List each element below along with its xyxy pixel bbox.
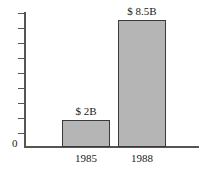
x-axis-category-label-1988: 1988	[118, 152, 166, 164]
bar-1985	[62, 120, 110, 147]
y-axis-line	[24, 12, 26, 148]
y-axis-tick	[18, 118, 24, 119]
y-axis-tick	[18, 103, 24, 104]
y-axis-tick	[18, 28, 24, 29]
y-axis-tick	[18, 88, 24, 89]
y-axis-tick	[18, 13, 24, 14]
y-axis-tick	[18, 58, 24, 59]
x-axis-line	[24, 146, 199, 148]
y-axis-tick	[18, 133, 24, 134]
y-axis-origin-label: 0	[12, 138, 18, 149]
bar-value-label-1985: $ 2B	[62, 106, 110, 117]
y-axis-tick	[18, 43, 24, 44]
x-axis-category-label-1985: 1985	[62, 152, 110, 164]
bar-chart: 0 $ 2B 1985 $ 8.5B 1988	[0, 0, 203, 174]
bar-value-label-1988: $ 8.5B	[114, 6, 170, 17]
bar-1988	[118, 20, 166, 147]
y-axis-tick	[18, 73, 24, 74]
